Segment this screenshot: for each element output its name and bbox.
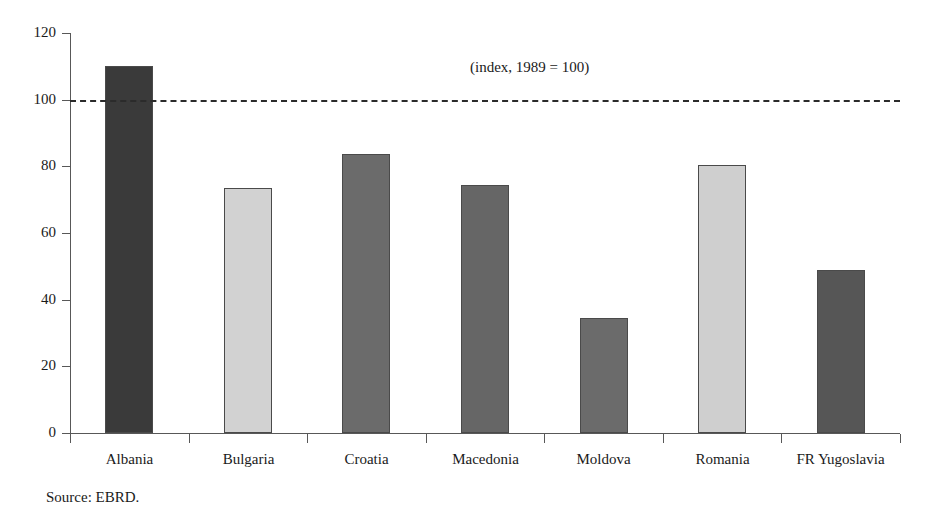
reference-line-100 [70, 100, 900, 102]
chart-figure: 120100806040200 AlbaniaBulgariaCroatiaMa… [0, 0, 930, 525]
bar-fr-yugoslavia [817, 270, 865, 433]
y-axis-tick [62, 366, 71, 367]
category-label-romania: Romania [663, 450, 782, 468]
x-axis-tick [307, 434, 308, 443]
category-label-bulgaria: Bulgaria [189, 450, 308, 468]
y-axis-tick [62, 166, 71, 167]
y-axis-tick-label: 20 [0, 358, 56, 373]
x-axis-tick [663, 434, 664, 443]
y-axis-tick [62, 300, 71, 301]
x-axis-tick [189, 434, 190, 443]
bar-romania [698, 165, 746, 433]
y-axis-tick [62, 233, 71, 234]
y-axis-tick-label: 40 [0, 292, 56, 307]
bar-albania [105, 66, 153, 433]
index-annotation: (index, 1989 = 100) [470, 58, 589, 76]
x-axis-tick [426, 434, 427, 443]
bar-bulgaria [224, 188, 272, 433]
bar-moldova [580, 318, 628, 433]
category-label-albania: Albania [70, 450, 189, 468]
bar-macedonia [461, 185, 509, 433]
x-axis-line [62, 433, 900, 434]
y-axis-tick-label: 100 [0, 92, 56, 107]
x-axis-tick [781, 434, 782, 443]
y-axis-tick [62, 33, 71, 34]
category-label-fr-yugoslavia: FR Yugoslavia [781, 450, 900, 468]
x-axis-tick [70, 434, 71, 443]
source-note: Source: EBRD. [46, 488, 139, 506]
x-axis-tick [544, 434, 545, 443]
category-label-macedonia: Macedonia [426, 450, 545, 468]
y-axis-tick-label: 120 [0, 25, 56, 40]
y-axis-tick-label: 60 [0, 225, 56, 240]
x-axis-tick [900, 434, 901, 443]
category-label-croatia: Croatia [307, 450, 426, 468]
y-axis-tick-label: 0 [0, 425, 56, 440]
category-label-moldova: Moldova [544, 450, 663, 468]
y-axis-tick-label: 80 [0, 158, 56, 173]
bar-croatia [342, 154, 390, 433]
